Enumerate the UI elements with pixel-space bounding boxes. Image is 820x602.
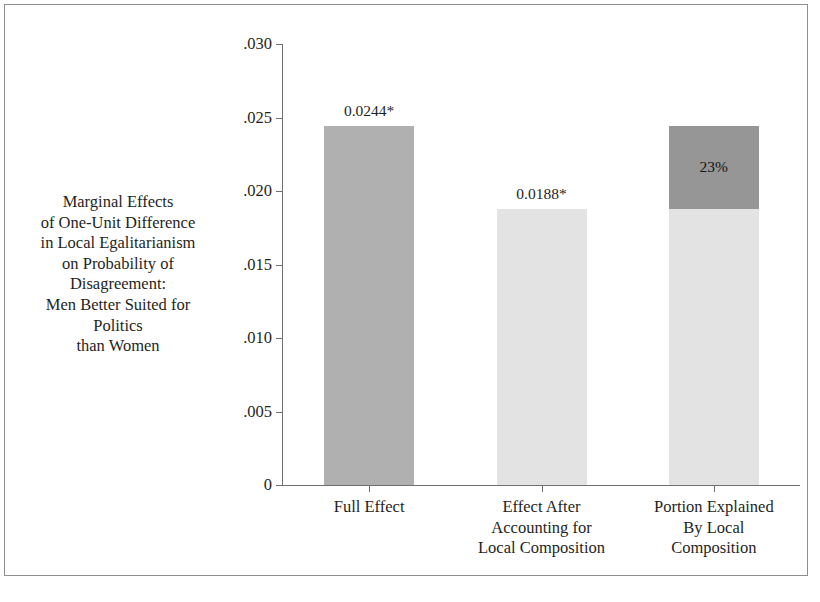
y-axis-title-line: of One-Unit Difference <box>14 213 222 234</box>
x-axis-tick-mark <box>369 485 370 492</box>
y-axis-title-line: Marginal Effects <box>14 192 222 213</box>
bar-segment-explained-portion[interactable]: 23% <box>669 126 759 208</box>
x-axis-label-line: Full Effect <box>334 497 405 518</box>
x-axis-category-label-3: Portion ExplainedBy LocalComposition <box>654 497 774 559</box>
y-axis-tick-mark <box>276 412 283 413</box>
bar-2[interactable] <box>497 209 587 485</box>
segment-label-explained-portion: 23% <box>700 158 728 176</box>
y-axis-title-line: in Local Egalitarianism <box>14 233 222 254</box>
bar-segment-unexplained-portion[interactable] <box>669 209 759 485</box>
y-axis-title-line: Disagreement: <box>14 274 222 295</box>
x-axis-label-line: Portion Explained <box>654 497 774 518</box>
y-axis-title-line: on Probability of <box>14 254 222 275</box>
y-axis-title-line: than Women <box>14 336 222 357</box>
x-axis-category-label-2: Effect AfterAccounting forLocal Composit… <box>478 497 605 559</box>
bar-segment-full-effect[interactable] <box>324 126 414 485</box>
y-axis-title-line: Politics <box>14 316 222 337</box>
x-axis-label-line: Effect After <box>478 497 605 518</box>
x-axis-tick-mark <box>714 485 715 492</box>
x-axis-label-line: Local Composition <box>478 538 605 559</box>
bar-value-label-1: 0.0244* <box>344 102 394 120</box>
y-axis-title-line: Men Better Suited for <box>14 295 222 316</box>
bar-1[interactable] <box>324 126 414 485</box>
plot-area: 0.005.010.015.020.025.0300.0244*Full Eff… <box>282 44 800 486</box>
bar-segment-residual-effect[interactable] <box>497 209 587 485</box>
y-axis-tick-mark <box>276 338 283 339</box>
x-axis-tick-mark <box>542 485 543 492</box>
x-axis-label-line: By Local <box>654 518 774 539</box>
y-axis-tick-mark <box>276 265 283 266</box>
x-axis-category-label-1: Full Effect <box>334 497 405 518</box>
y-axis-tick-mark <box>276 44 283 45</box>
bar-value-label-2: 0.0188* <box>516 185 566 203</box>
bar-3[interactable]: 23% <box>669 126 759 485</box>
figure-container: Marginal Effects of One-Unit Difference … <box>0 0 820 602</box>
y-axis-tick-mark <box>276 191 283 192</box>
y-axis-title: Marginal Effects of One-Unit Difference … <box>14 192 222 357</box>
y-axis-tick-mark <box>276 118 283 119</box>
x-axis-label-line: Composition <box>654 538 774 559</box>
x-axis-label-line: Accounting for <box>478 518 605 539</box>
y-axis-tick-mark <box>276 485 283 486</box>
